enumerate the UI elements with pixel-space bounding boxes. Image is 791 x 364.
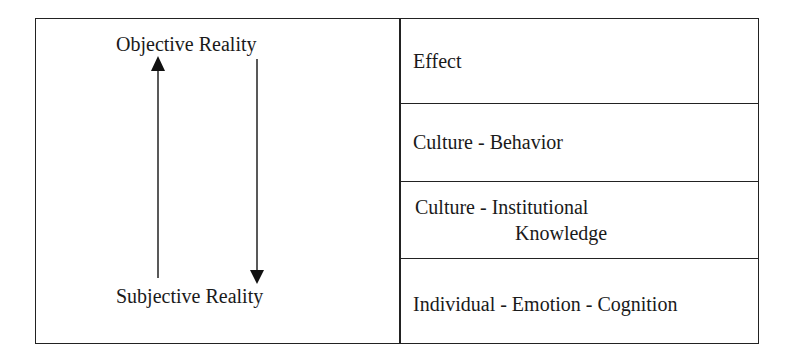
up-arrow-icon [151, 56, 165, 278]
layer-individual-emotion-cognition: Individual - Emotion - Cognition [400, 259, 758, 345]
layer-culture-institutional-knowledge: Culture - Institutional Knowledge [400, 182, 758, 259]
down-arrow-icon [250, 59, 264, 284]
layer-label-line2: Knowledge [415, 220, 607, 246]
reality-axis-panel: Objective Reality Subjective Reality [36, 19, 400, 343]
diagram-frame: Objective Reality Subjective Reality Eff… [35, 18, 759, 344]
layer-culture-behavior: Culture - Behavior [400, 104, 758, 182]
layer-label: Individual - Emotion - Cognition [413, 293, 677, 316]
layer-label: Culture - Behavior [413, 131, 563, 154]
layers-panel: Effect Culture - Behavior Culture - Inst… [400, 19, 758, 343]
arrows-layer [36, 19, 400, 345]
layer-label-line1: Culture - Institutional [415, 194, 588, 220]
layer-effect: Effect [400, 19, 758, 104]
layer-label: Effect [413, 50, 462, 73]
